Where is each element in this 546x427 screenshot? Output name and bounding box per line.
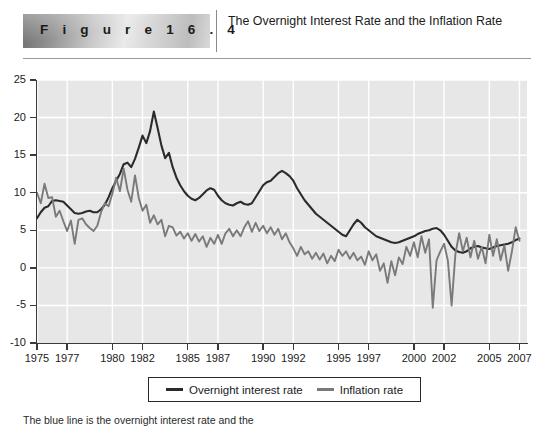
x-axis-tick bbox=[36, 344, 37, 350]
x-axis-label: 1992 bbox=[273, 352, 313, 364]
y-axis-tick bbox=[30, 192, 36, 193]
plot-canvas bbox=[37, 80, 527, 343]
y-axis-tick bbox=[30, 267, 36, 268]
figure-title: The Overnight Interest Rate and the Infl… bbox=[228, 13, 528, 29]
legend-swatch-line-icon bbox=[317, 388, 334, 391]
y-axis-line bbox=[36, 80, 37, 344]
x-axis-tick bbox=[368, 344, 369, 350]
y-axis-tick bbox=[30, 79, 36, 80]
y-axis-tick bbox=[30, 117, 36, 118]
x-axis-tick bbox=[443, 344, 444, 350]
x-axis-label: 2007 bbox=[499, 352, 539, 364]
x-axis-tick bbox=[262, 344, 263, 350]
chart-legend: Overnight interest rate Inflation rate bbox=[148, 377, 421, 402]
y-axis-label: 20 bbox=[0, 111, 26, 123]
x-axis-tick bbox=[519, 344, 520, 350]
figure-caption: The blue line is the overnight interest … bbox=[23, 414, 523, 427]
x-axis-tick bbox=[489, 344, 490, 350]
x-axis-label: 2002 bbox=[424, 352, 464, 364]
x-axis-tick bbox=[187, 344, 188, 350]
header-rule bbox=[23, 58, 531, 59]
y-axis-tick bbox=[30, 305, 36, 306]
vertical-gridlines bbox=[37, 80, 519, 343]
x-axis-tick bbox=[293, 344, 294, 350]
x-axis-tick bbox=[66, 344, 67, 350]
x-axis-tick bbox=[413, 344, 414, 350]
x-axis-line bbox=[36, 343, 528, 344]
figure-header: F i g u r e 1 6 . 4 The Overnight Intere… bbox=[0, 0, 546, 62]
legend-item-inflation-rate: Inflation rate bbox=[317, 384, 403, 396]
x-axis-label: 1982 bbox=[123, 352, 163, 364]
y-axis-label: 0 bbox=[0, 261, 26, 273]
y-axis-tick bbox=[30, 154, 36, 155]
y-axis-label: -5 bbox=[0, 298, 26, 310]
y-axis-tick bbox=[30, 342, 36, 343]
plot-region bbox=[37, 80, 527, 343]
x-axis-label: 1997 bbox=[349, 352, 389, 364]
legend-item-overnight-interest-rate: Overnight interest rate bbox=[166, 384, 303, 396]
y-axis-label: 5 bbox=[0, 223, 26, 235]
legend-label: Overnight interest rate bbox=[189, 384, 303, 396]
y-axis-tick bbox=[30, 230, 36, 231]
x-axis-label: 1977 bbox=[47, 352, 87, 364]
y-axis-label: 25 bbox=[0, 73, 26, 85]
x-axis-tick bbox=[217, 344, 218, 350]
legend-label: Inflation rate bbox=[340, 384, 403, 396]
y-axis-label: 15 bbox=[0, 148, 26, 160]
y-axis-label: -10 bbox=[0, 336, 26, 348]
x-axis-tick bbox=[112, 344, 113, 350]
x-axis-label: 1987 bbox=[198, 352, 238, 364]
line-overnight-interest-rate bbox=[37, 112, 519, 253]
x-axis-tick bbox=[338, 344, 339, 350]
x-axis-tick bbox=[142, 344, 143, 350]
legend-swatch-line-icon bbox=[166, 388, 183, 391]
y-axis-label: 10 bbox=[0, 186, 26, 198]
chart-area: 2520151050-5-10 197519771980198219851987… bbox=[0, 62, 546, 372]
figure-number-label: F i g u r e 1 6 . 4 bbox=[40, 22, 240, 37]
